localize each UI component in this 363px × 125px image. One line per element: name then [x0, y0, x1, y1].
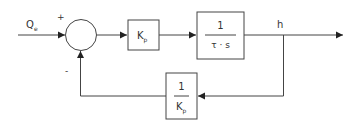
summing-junction: + - [57, 12, 97, 76]
integrator-numerator: 1 [217, 20, 223, 31]
input-label: Qe [26, 19, 38, 32]
output-label: h [277, 19, 283, 30]
gain-block: Kp [128, 20, 159, 50]
plus-sign: + [57, 12, 65, 22]
output-signal: h [244, 19, 343, 35]
integrator-denominator: τ · s [211, 40, 230, 50]
minus-sign: - [65, 66, 68, 76]
feedback-block: 1 Kp [166, 73, 197, 119]
feedback-numerator: 1 [178, 81, 184, 92]
integrator-block: 1 τ · s [197, 12, 244, 59]
block-diagram: Qe + - Kp 1 τ · s h 1 Kp [0, 0, 363, 125]
